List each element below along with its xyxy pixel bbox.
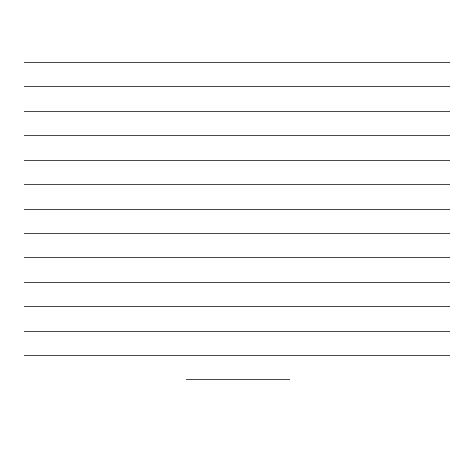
ruled-line: [24, 282, 450, 283]
ruled-line: [24, 184, 450, 185]
ruled-line: [24, 306, 450, 307]
ruled-line: [24, 111, 450, 112]
ruled-line: [24, 135, 450, 136]
ruled-line: [24, 86, 450, 87]
ruled-line: [24, 160, 450, 161]
ruled-line: [24, 331, 450, 332]
ruled-line: [24, 233, 450, 234]
ruled-line: [24, 257, 450, 258]
ruled-line: [24, 355, 450, 356]
ruled-line: [24, 62, 450, 63]
ruled-line: [24, 209, 450, 210]
signature-line: [186, 379, 290, 380]
